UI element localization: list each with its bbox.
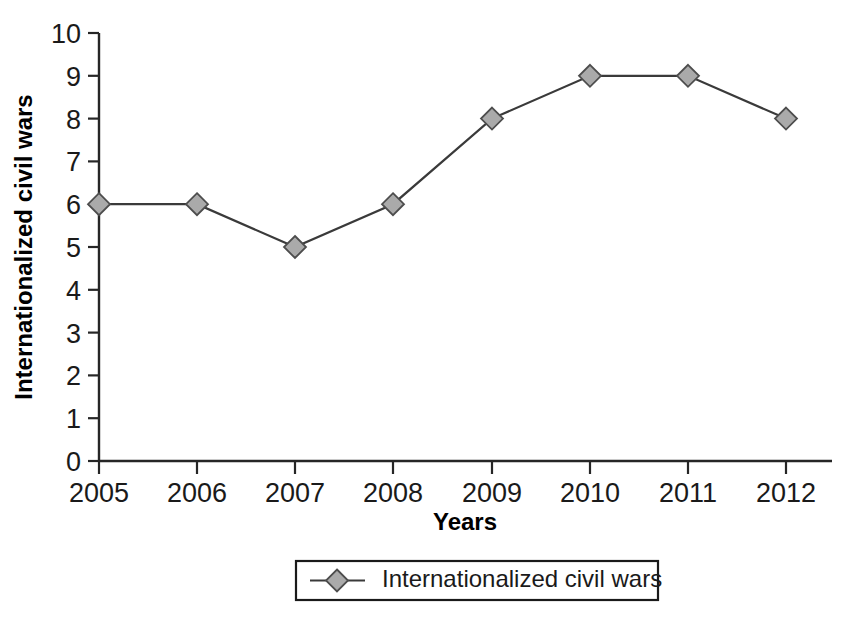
y-tick-label-0: 0 [66, 447, 81, 477]
y-axis-title: Internationalized civil wars [10, 94, 37, 399]
y-axis-ticks [88, 33, 99, 461]
x-tick-label-2010: 2010 [560, 478, 620, 508]
y-tick-label-6: 6 [66, 190, 81, 220]
x-tick-label-2011: 2011 [659, 478, 717, 508]
x-axis-tick-labels: 2005 2006 2007 2008 2009 2010 2011 2012 [69, 478, 816, 508]
x-tick-label-2012: 2012 [756, 478, 816, 508]
y-tick-label-4: 4 [66, 276, 81, 306]
y-tick-label-2: 2 [66, 361, 81, 391]
y-tick-label-7: 7 [66, 147, 81, 177]
x-tick-label-2006: 2006 [167, 478, 227, 508]
chart-canvas: 0 1 2 3 4 5 6 7 8 9 10 2005 2006 2 [0, 0, 851, 625]
x-tick-label-2005: 2005 [69, 478, 129, 508]
chart-legend: Internationalized civil wars [296, 561, 662, 600]
x-tick-label-2009: 2009 [462, 478, 522, 508]
legend-entry-label: Internationalized civil wars [382, 565, 662, 592]
y-tick-label-10: 10 [51, 19, 81, 49]
y-axis-tick-labels: 0 1 2 3 4 5 6 7 8 9 10 [51, 19, 81, 477]
y-tick-label-8: 8 [66, 105, 81, 135]
data-point-2012 [775, 108, 797, 130]
data-point-2010 [579, 65, 601, 87]
line-chart: 0 1 2 3 4 5 6 7 8 9 10 2005 2006 2 [0, 0, 851, 625]
y-tick-label-5: 5 [66, 233, 81, 263]
data-point-2007 [284, 236, 306, 258]
data-point-2011 [677, 65, 699, 87]
x-tick-label-2007: 2007 [265, 478, 325, 508]
y-tick-label-1: 1 [66, 404, 81, 434]
x-tick-label-2008: 2008 [363, 478, 423, 508]
x-axis-title: Years [433, 508, 497, 535]
data-point-2006 [186, 193, 208, 215]
data-point-2005 [88, 193, 110, 215]
y-tick-label-9: 9 [66, 62, 81, 92]
y-tick-label-3: 3 [66, 319, 81, 349]
x-axis-ticks [99, 461, 786, 474]
series-line-internationalized-civil-wars [99, 76, 786, 247]
